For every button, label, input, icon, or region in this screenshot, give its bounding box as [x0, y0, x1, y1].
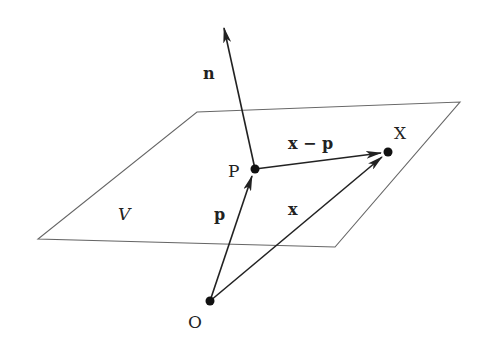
- diagram-svg: n P X O x − p x p V: [0, 0, 490, 350]
- label-x-minus-p: x − p: [288, 134, 333, 153]
- point-p-dot: [251, 165, 260, 174]
- label-vector-x: x: [288, 200, 298, 219]
- label-vector-p: p: [214, 205, 225, 224]
- label-n: n: [203, 64, 215, 83]
- label-point-p: P: [228, 161, 239, 181]
- vector-n: [224, 28, 255, 169]
- point-o-dot: [206, 297, 215, 306]
- vector-x-minus-p: [255, 153, 381, 169]
- label-plane-v: V: [118, 204, 132, 224]
- diagram-canvas: n P X O x − p x p V: [0, 0, 490, 350]
- label-point-o: O: [188, 312, 202, 332]
- vector-p: [210, 176, 252, 301]
- point-x-dot: [384, 148, 393, 157]
- label-point-x: X: [394, 123, 407, 143]
